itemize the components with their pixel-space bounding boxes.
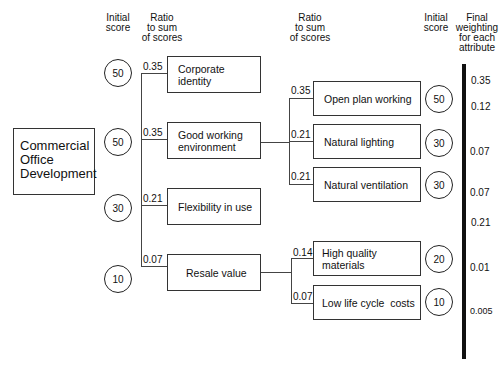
attribute-label: Low life cycle costs [322, 297, 415, 309]
attribute-box-high-quality-materials: High quality materials [313, 241, 421, 276]
header-line: score [419, 23, 453, 33]
attribute-box-open-plan-working: Open plan working [313, 81, 421, 116]
final-weight-value: 0.12 [471, 102, 490, 112]
attribute-label: Good working [178, 129, 243, 141]
attribute-box-natural-lighting: Natural lighting [313, 124, 421, 159]
score-value: 20 [433, 254, 444, 265]
initial-score-circle: 50 [104, 128, 132, 156]
attribute-box-natural-ventilation: Natural ventilation [313, 167, 421, 202]
attribute-label: Flexibility in use [178, 201, 252, 213]
final-weight-value: 0.01 [470, 263, 489, 273]
connector-level1-branch [141, 266, 167, 267]
initial-score-circle: 30 [104, 194, 132, 222]
initial-score-circle: 50 [425, 85, 453, 113]
ratio-label: 0.07 [143, 255, 162, 265]
score-value: 50 [112, 137, 123, 148]
ratio-label: 0.21 [291, 172, 310, 182]
final-weighting-bar [462, 64, 466, 359]
root-label-line: Commercial [20, 139, 88, 153]
header-left-initial-score: Initial score [101, 13, 135, 33]
initial-score-circle: 50 [104, 59, 132, 87]
attribute-label: environment [178, 141, 236, 153]
final-weight-value: 0.35 [471, 76, 490, 86]
ratio-label: 0.21 [143, 194, 162, 204]
header-line: of scores [284, 33, 336, 43]
attribute-box-good-working-environment: Good working environment [167, 122, 261, 159]
score-value: 30 [112, 203, 123, 214]
attribute-label: Resale value [186, 267, 247, 279]
ratio-label: 0.35 [143, 62, 162, 72]
connector-level2-stem [261, 272, 291, 273]
connector-level1-branch [141, 205, 167, 206]
attribute-box-low-life-cycle-costs: Low life cycle costs [313, 285, 421, 320]
root-label-line: Office [20, 153, 88, 167]
attribute-label: Open plan working [324, 93, 412, 105]
root-label-line: Development [20, 167, 88, 181]
score-value: 10 [433, 297, 444, 308]
score-value: 50 [433, 94, 444, 105]
final-weight-value: 0.21 [471, 218, 490, 228]
connector-level2-trunk [291, 258, 292, 304]
attribute-label: High quality materials [322, 247, 420, 271]
attribute-box-resale-value: Resale value [167, 254, 261, 291]
final-weight-value: 0.07 [470, 147, 489, 157]
header-final-weighting: Final weighting for each attribute [451, 13, 503, 53]
score-value: 30 [433, 138, 444, 149]
header-line: score [101, 23, 135, 33]
connector-level2-branch [291, 303, 313, 304]
connector-level2-branch [289, 98, 313, 99]
header-line: of scores [136, 33, 188, 43]
attribute-box-corporate-identity: Corporate identity [167, 56, 261, 93]
connector-level1-branch [141, 139, 167, 140]
connector-level1-trunk [141, 73, 142, 267]
initial-score-circle: 30 [425, 171, 453, 199]
attribute-label: Natural lighting [324, 136, 394, 148]
initial-score-circle: 20 [425, 245, 453, 273]
score-value: 50 [112, 68, 123, 79]
attribute-box-flexibility-in-use: Flexibility in use [167, 188, 261, 225]
final-weight-value: 0.005 [470, 306, 493, 316]
connector-level2-stem [261, 142, 289, 143]
header-right-initial-score: Initial score [419, 13, 453, 33]
score-value: 30 [433, 180, 444, 191]
header-right-ratio: Ratio to sum of scores [284, 13, 336, 43]
ratio-label: 0.07 [293, 292, 312, 302]
header-line: attribute [451, 43, 503, 53]
ratio-label: 0.21 [291, 130, 310, 140]
initial-score-circle: 30 [425, 129, 453, 157]
attribute-label: Corporate identity [178, 63, 260, 87]
ratio-label: 0.35 [143, 128, 162, 138]
score-value: 10 [112, 274, 123, 285]
connector-level2-branch [289, 141, 313, 142]
connector-level1-branch [141, 73, 167, 74]
header-left-ratio: Ratio to sum of scores [136, 13, 188, 43]
ratio-label: 0.14 [293, 248, 312, 258]
connector-level2-branch [291, 258, 313, 259]
root-node-box: Commercial Office Development [13, 128, 95, 195]
final-weight-value: 0.07 [470, 188, 489, 198]
initial-score-circle: 10 [104, 265, 132, 293]
ratio-label: 0.35 [291, 86, 310, 96]
initial-score-circle: 10 [425, 288, 453, 316]
connector-level2-branch [289, 184, 313, 185]
attribute-label: Natural ventilation [324, 179, 408, 191]
